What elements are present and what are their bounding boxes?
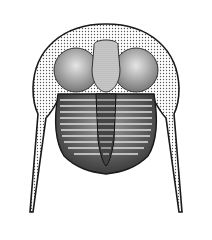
trilobite-illustration [0, 0, 212, 240]
trilobite-figure [0, 0, 212, 240]
thorax [56, 94, 157, 174]
